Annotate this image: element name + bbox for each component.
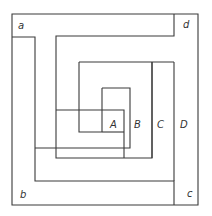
region-B-boundary — [35, 88, 130, 148]
label-d: d — [183, 19, 190, 30]
label-b: b — [20, 189, 26, 200]
corridor-d-boundary — [56, 14, 174, 158]
label-B: B — [134, 119, 141, 130]
label-a: a — [18, 20, 24, 31]
label-D: D — [180, 119, 188, 130]
region-A-boundary — [56, 110, 124, 158]
label-A: A — [109, 119, 117, 130]
label-c: c — [187, 188, 193, 199]
maze-diagram: a d b c A B C D — [0, 0, 212, 216]
label-C: C — [157, 119, 164, 130]
